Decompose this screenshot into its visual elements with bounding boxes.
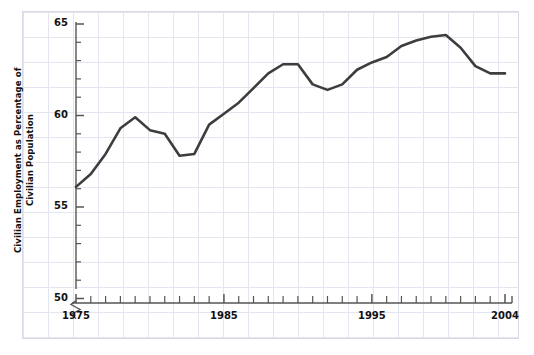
y-axis-tick-label: 65 bbox=[40, 17, 68, 28]
plot-area bbox=[0, 0, 534, 355]
x-axis-tick-label: 1985 bbox=[202, 310, 246, 321]
chart-figure: Civilian Employment as Percentage of Civ… bbox=[0, 0, 534, 355]
y-axis-tick-label: 50 bbox=[40, 292, 68, 303]
x-axis-tick-label: 1975 bbox=[54, 310, 98, 321]
x-axis-tick-label: 2004 bbox=[483, 310, 527, 321]
data-series-line bbox=[76, 35, 505, 187]
y-axis-tick-label: 60 bbox=[40, 109, 68, 120]
y-axis-tick-label: 55 bbox=[40, 200, 68, 211]
x-axis-tick-label: 1995 bbox=[350, 310, 394, 321]
